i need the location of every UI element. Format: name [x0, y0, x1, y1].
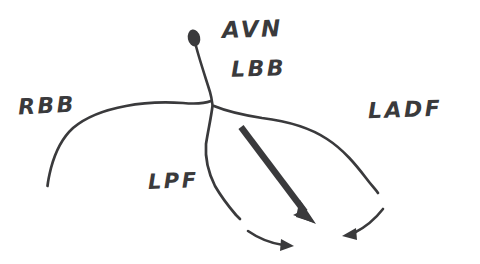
- av-stem-path: [196, 46, 213, 105]
- ladf-vector-arrow: [342, 209, 383, 240]
- lpf-branch-path: [206, 106, 240, 219]
- label-lpf: LPF: [148, 170, 199, 193]
- label-ladf: LADF: [368, 98, 443, 123]
- main-vector-arrow: [241, 127, 316, 224]
- label-avn: AVN: [222, 17, 284, 42]
- lpf-vector-arrow: [248, 231, 294, 251]
- label-rbb: RBB: [17, 93, 76, 118]
- label-lbb: LBB: [231, 57, 287, 80]
- diagram-canvas: AVN LBB RBB LADF LPF: [0, 0, 480, 264]
- avn-node-icon: [186, 28, 202, 47]
- ladf-branch-path: [214, 106, 378, 193]
